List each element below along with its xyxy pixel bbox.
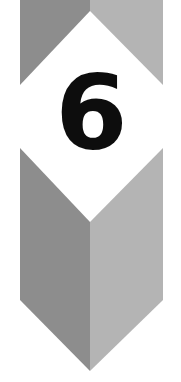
chapter-number-graphic: 6 bbox=[0, 0, 181, 382]
chevron-banner-art bbox=[0, 0, 181, 382]
